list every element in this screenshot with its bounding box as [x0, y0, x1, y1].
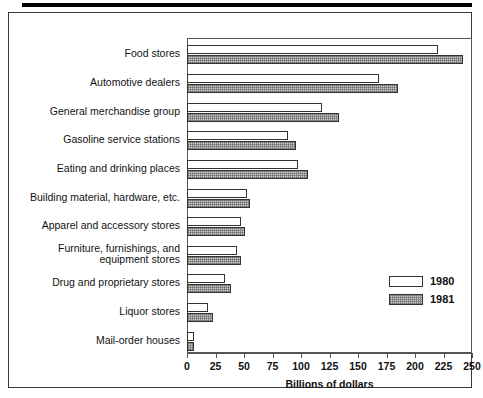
legend-swatch-1981-icon [389, 294, 423, 305]
bar-1980 [187, 45, 438, 54]
figure-page: Food storesAutomotive dealersGeneral mer… [0, 0, 483, 398]
x-axis-tick [273, 353, 274, 358]
chart-legend: 1980 1981 [389, 275, 465, 311]
category-label: Automotive dealers [13, 77, 185, 89]
category-label: Building material, hardware, etc. [13, 192, 185, 204]
bar-1981 [187, 113, 339, 122]
x-axis-tick-label: 175 [372, 360, 402, 372]
x-axis: 0255075100125150175200225250 [187, 353, 472, 354]
bar-1980 [187, 103, 322, 112]
legend-item-1981: 1981 [389, 293, 465, 308]
legend-label-1981: 1981 [430, 293, 454, 306]
x-axis-tick-label: 200 [400, 360, 430, 372]
x-axis-tick-label: 50 [229, 360, 259, 372]
x-axis-tick-label: 125 [315, 360, 345, 372]
category-label: Eating and drinking places [13, 163, 185, 175]
bar-1980 [187, 189, 247, 198]
bar-1981 [187, 170, 308, 179]
bar-1980 [187, 274, 225, 283]
bar-1981 [187, 55, 463, 64]
x-axis-tick [358, 353, 359, 358]
x-axis-tick [444, 353, 445, 358]
bar-1980 [187, 131, 288, 140]
legend-swatch-1980-icon [389, 276, 423, 287]
bar-1981 [187, 256, 241, 265]
x-axis-tick [472, 353, 473, 358]
x-axis-tick [187, 353, 188, 358]
bar-1981 [187, 199, 250, 208]
bar-1980 [187, 160, 298, 169]
x-axis-tick-label: 25 [201, 360, 231, 372]
x-axis-tick-label: 0 [172, 360, 202, 372]
category-label: Liquor stores [13, 306, 185, 318]
bar-1980 [187, 303, 208, 312]
x-axis-title: Billions of dollars [187, 378, 472, 390]
x-axis-tick-label: 75 [258, 360, 288, 372]
legend-label-1980: 1980 [430, 275, 454, 288]
bar-1980 [187, 246, 237, 255]
category-label: Drug and proprietary stores [13, 277, 185, 289]
bar-1981 [187, 141, 296, 150]
figure-border: Food storesAutomotive dealersGeneral mer… [8, 12, 472, 388]
x-axis-tick-label: 225 [429, 360, 459, 372]
bar-1980 [187, 217, 241, 226]
x-axis-tick [244, 353, 245, 358]
x-axis-tick [415, 353, 416, 358]
category-label: General merchandise group [13, 106, 185, 118]
x-axis-tick-label: 100 [286, 360, 316, 372]
top-rule-divider [22, 3, 472, 7]
bar-1980 [187, 74, 379, 83]
x-axis-tick-label: 250 [457, 360, 483, 372]
legend-item-1980: 1980 [389, 275, 465, 290]
category-label: Furniture, furnishings, and equipment st… [13, 243, 185, 266]
bar-1981 [187, 284, 231, 293]
bar-1980 [187, 332, 194, 341]
category-label: Apparel and accessory stores [13, 220, 185, 232]
x-axis-tick [216, 353, 217, 358]
x-axis-tick [301, 353, 302, 358]
x-axis-tick [330, 353, 331, 358]
x-axis-tick-label: 150 [343, 360, 373, 372]
bar-1981 [187, 84, 398, 93]
bar-1981 [187, 342, 194, 351]
category-label: Gasoline service stations [13, 134, 185, 146]
x-axis-tick [387, 353, 388, 358]
category-label: Mail-order houses [13, 335, 185, 347]
category-label: Food stores [13, 48, 185, 60]
bar-1981 [187, 227, 245, 236]
bar-1981 [187, 313, 213, 322]
